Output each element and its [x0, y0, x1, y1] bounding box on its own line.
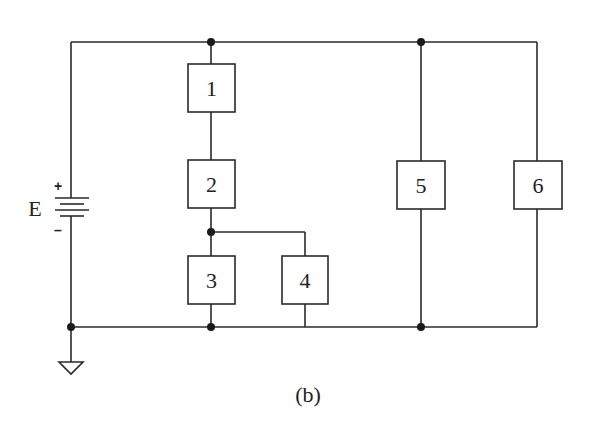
plus-sign: + — [54, 178, 62, 194]
svg-text:1: 1 — [206, 76, 217, 101]
junction-dot — [417, 323, 425, 331]
junction-dot — [417, 38, 425, 46]
ground-icon — [59, 327, 83, 374]
battery-icon — [55, 198, 89, 216]
source-label: E — [28, 196, 41, 221]
svg-text:4: 4 — [300, 268, 311, 293]
junction-dot — [207, 323, 215, 331]
element-2: 2 — [188, 160, 235, 208]
element-1: 1 — [188, 64, 235, 112]
element-4: 4 — [282, 256, 328, 304]
minus-sign: – — [54, 222, 62, 238]
junction-dot — [207, 38, 215, 46]
figure-caption: (b) — [295, 382, 321, 407]
svg-text:2: 2 — [206, 172, 217, 197]
junction-dot — [207, 228, 215, 236]
element-5: 5 — [397, 161, 445, 209]
junction-dot — [67, 323, 75, 331]
svg-text:6: 6 — [533, 173, 544, 198]
battery-branch: E + – — [28, 42, 89, 327]
svg-text:5: 5 — [416, 173, 427, 198]
element-3: 3 — [188, 256, 235, 304]
element-6: 6 — [514, 161, 562, 209]
circuit-diagram: E + – 1 2 3 4 5 6 — [0, 0, 590, 424]
svg-text:3: 3 — [206, 268, 217, 293]
